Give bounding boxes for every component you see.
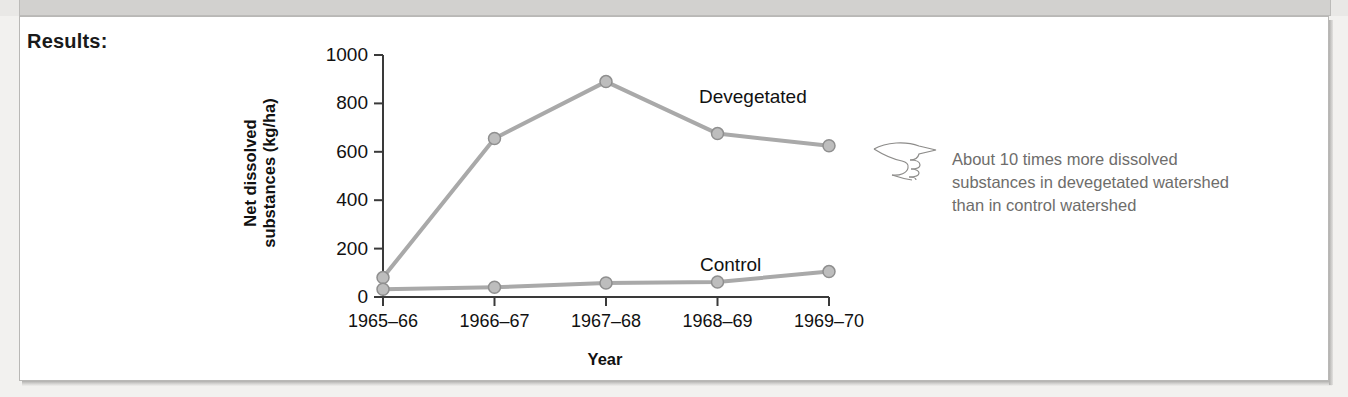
x-axis-tick-label: 1965–66 [318, 311, 448, 332]
banner-strip: Prediction of null hypothesis [0, 0, 1348, 16]
x-axis-tick-label: 1967–68 [541, 311, 671, 332]
series-label-control: Control [700, 254, 761, 276]
y-axis-tick-label: 600 [302, 142, 368, 161]
annotation-line-1: About 10 times more dissolved [952, 148, 1282, 171]
y-axis-title-line2: substances (kg/ha) [260, 98, 278, 247]
y-axis-title-line1: Net dissolved [241, 119, 259, 226]
y-axis-tick-label: 1000 [302, 45, 368, 64]
series-label-devegetated: Devegetated [699, 86, 807, 108]
results-label: Results: [27, 30, 108, 53]
annotation-text: About 10 times more dissolved substances… [952, 148, 1282, 217]
pointing-hand-icon [872, 140, 944, 182]
y-axis-title: Net dissolved substances (kg/ha) [232, 48, 288, 298]
y-axis-tick-label: 200 [302, 239, 368, 258]
x-axis-title: Year [505, 350, 705, 369]
banner-bar [19, 0, 1331, 16]
y-axis-tick-label: 400 [302, 190, 368, 209]
y-axis-tick-label: 0 [302, 287, 368, 306]
page-root: Prediction of null hypothesis Results: N… [0, 0, 1348, 397]
annotation-line-3: than in control watershed [952, 194, 1282, 217]
x-axis-tick-label: 1969–70 [764, 311, 894, 332]
x-axis-tick-label: 1968–69 [653, 311, 783, 332]
y-axis-tick-label: 800 [302, 93, 368, 112]
x-axis-tick-label: 1966–67 [430, 311, 560, 332]
annotation-line-2: substances in devegetated watershed [952, 171, 1282, 194]
panel-shadow-right [1329, 20, 1333, 385]
panel-shadow-bottom [22, 381, 1332, 386]
